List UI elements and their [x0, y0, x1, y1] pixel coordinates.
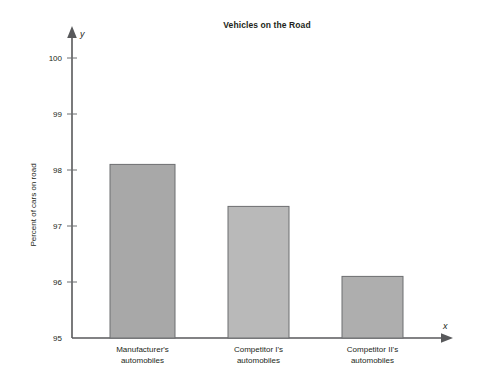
y-tick-label: 97 [53, 222, 62, 231]
x-axis-category-label: automobiles [121, 356, 164, 365]
chart-page: Vehicles on the Road y x 9596979899100 P… [0, 0, 477, 386]
y-tick-label: 96 [53, 278, 62, 287]
y-axis-symbol: y [79, 29, 85, 39]
bar [228, 206, 289, 338]
y-tick-label: 95 [53, 334, 62, 343]
y-tick-label: 100 [49, 54, 63, 63]
x-axis-symbol: x [442, 321, 448, 331]
bar-series [110, 164, 403, 338]
y-axis: y [67, 26, 85, 338]
y-tick-label: 98 [53, 166, 62, 175]
bar [110, 164, 175, 338]
y-axis-arrow-icon [67, 26, 77, 38]
x-axis-category-label: automobiles [351, 356, 394, 365]
x-axis-category-label: Competitor II's [347, 345, 398, 354]
y-axis-title: Percent of cars on road [29, 163, 38, 246]
chart-title: Vehicles on the Road [223, 20, 311, 30]
x-axis-arrow-icon [441, 333, 453, 343]
x-axis-category-labels: Manufacturer'sautomobilesCompetitor I'sa… [116, 345, 398, 365]
x-axis-category-label: Competitor I's [234, 345, 283, 354]
x-axis-category-label: Manufacturer's [116, 345, 169, 354]
x-axis-category-label: automobiles [237, 356, 280, 365]
bar-chart: Vehicles on the Road y x 9596979899100 P… [0, 0, 477, 386]
y-tick-label: 99 [53, 110, 62, 119]
bar [342, 276, 403, 338]
